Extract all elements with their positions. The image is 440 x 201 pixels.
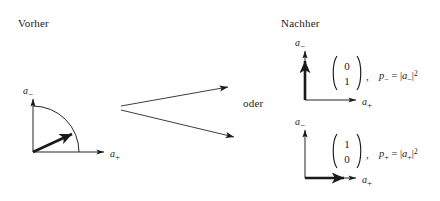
outcome-plus-horizontal-axis-label: a+ [362, 174, 372, 188]
outcome-minus-vertical-axis-label: a− [295, 37, 305, 51]
before-vertical-axis-label: a− [23, 85, 33, 99]
outcome-plus-right-paren [357, 134, 361, 168]
outcome-plus-left-paren [333, 134, 337, 168]
outcome-plus-vector-top: 1 [344, 138, 350, 150]
outcome-plus-probability-formula: p+ = |a+|2 [378, 147, 418, 162]
figure-canvas: Vorher Nachher oder [0, 0, 440, 201]
branch-arrows [121, 87, 234, 137]
outcome-minus-separator: , [366, 70, 369, 82]
outcome-plus-panel: a− a+ 1 0 , p+ = |a+|2 [295, 116, 418, 188]
before-horizontal-axis-label: a+ [110, 148, 120, 162]
outcome-minus-vector-top: 0 [344, 60, 350, 72]
outcome-minus-left-paren [333, 56, 337, 90]
before-quarter-arc [33, 106, 79, 152]
outcome-minus-probability-formula: p− = |a−|2 [378, 69, 418, 84]
diagram-vector-layer: a− a+ a− a+ [0, 0, 440, 201]
outcome-plus-separator: , [366, 148, 369, 160]
branch-upper-arrow [121, 87, 228, 106]
before-panel: a− a+ [23, 85, 120, 162]
outcome-plus-vertical-axis-label: a− [295, 116, 305, 130]
outcome-minus-column-vector: 0 1 [333, 56, 361, 90]
before-state-vector [33, 134, 72, 152]
branch-lower-arrow [121, 110, 234, 137]
outcome-minus-panel: a− a+ 0 1 , p− = |a−|2 [295, 37, 418, 110]
outcome-minus-vector-bottom: 1 [344, 75, 350, 87]
outcome-minus-horizontal-axis-label: a+ [362, 96, 372, 110]
outcome-minus-right-paren [357, 56, 361, 90]
outcome-plus-vector-bottom: 0 [344, 153, 350, 165]
outcome-plus-column-vector: 1 0 [333, 134, 361, 168]
